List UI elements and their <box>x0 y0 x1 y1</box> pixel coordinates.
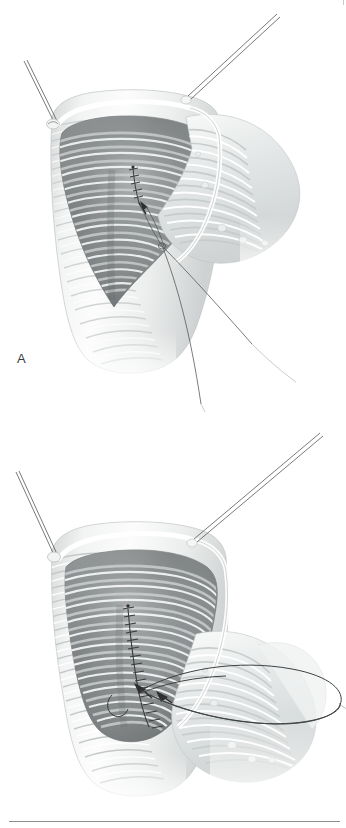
wall-fade-b <box>46 753 186 810</box>
wall-fade-a <box>46 330 176 388</box>
panel-b-illustration <box>0 415 346 810</box>
traction-suture-right-b <box>187 433 323 547</box>
suture-loop-tail-b <box>340 705 346 709</box>
panel-label-a: A <box>17 352 26 365</box>
loop-fade-a <box>240 215 346 275</box>
lumen-groove-a <box>111 170 113 300</box>
corner-registration-tick <box>343 0 344 5</box>
loop-fade-b <box>210 715 346 810</box>
figure-page: A <box>0 0 346 828</box>
panel-a: A <box>0 0 346 415</box>
traction-suture-right-a <box>181 14 280 104</box>
panel-a-illustration <box>0 0 346 415</box>
suture-knot-left-b <box>48 552 61 562</box>
suture-knot-right-a <box>181 96 191 104</box>
figure-bottom-rule <box>9 821 340 822</box>
suture-tail-fade-a <box>201 344 296 412</box>
bowel-loop-b <box>172 631 346 810</box>
stitch-node-a <box>131 165 134 168</box>
suture-knot-right-b <box>187 539 197 547</box>
suture-start-node-b <box>126 604 129 607</box>
panel-b: B <box>0 415 346 810</box>
